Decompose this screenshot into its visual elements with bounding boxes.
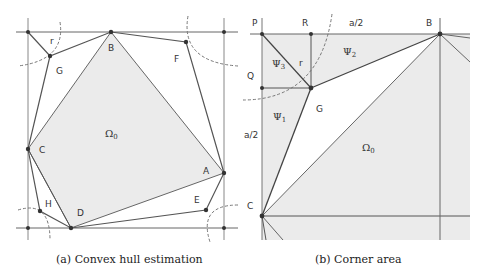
label-P: P: [252, 18, 258, 28]
point-F: [184, 40, 188, 44]
point-D: [69, 226, 73, 230]
label-E: E: [194, 195, 200, 205]
label-r-b: r: [299, 58, 303, 68]
figure-canvas: B F G r C A E D H Ω0: [0, 0, 486, 279]
point-G-b: [309, 86, 314, 91]
point-B-b: [438, 32, 443, 37]
radius-arc-bl: [18, 208, 50, 240]
point-H: [38, 209, 42, 213]
radius-arc-tr: [187, 16, 238, 66]
point-G-a: [48, 54, 52, 58]
point-B-a: [109, 30, 113, 34]
point-E: [204, 208, 208, 212]
panel-b-corner-area: P R a/2 B Q r G a/2 C Ψ3 Ψ2 Ψ1 Ω0: [243, 14, 470, 240]
label-a-half-left: a/2: [244, 130, 258, 140]
psi1-region: [262, 88, 311, 140]
label-D: D: [77, 208, 84, 218]
label-Q: Q: [247, 71, 254, 81]
label-R: R: [302, 18, 308, 28]
label-A: A: [203, 166, 210, 176]
label-a-half-top: a/2: [349, 18, 363, 28]
point-Q: [260, 86, 264, 90]
label-C-b: C: [247, 201, 253, 211]
label-C-a: C: [39, 145, 45, 155]
caption-corner-area: (b) Corner area: [315, 253, 402, 266]
label-G-b: G: [316, 104, 323, 114]
point-A: [222, 171, 226, 175]
caption-convex-hull: (a) Convex hull estimation: [56, 253, 203, 266]
point-C-a: [26, 147, 30, 151]
label-B-a: B: [108, 43, 114, 53]
label-r-a: r: [50, 36, 54, 46]
label-F: F: [174, 54, 179, 64]
label-H: H: [45, 199, 52, 209]
point-P: [260, 32, 264, 36]
label-G-a: G: [56, 66, 63, 76]
point-C-b: [260, 214, 265, 219]
panel-a-convex-hull: B F G r C A E D H Ω0: [16, 16, 238, 242]
point-R: [309, 32, 313, 36]
label-B-b: B: [426, 18, 432, 28]
radius-arc-br: [207, 205, 238, 242]
